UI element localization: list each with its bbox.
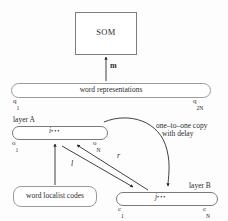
q2n-subscript: 2N	[197, 105, 204, 111]
oN-subscript: N	[97, 147, 101, 153]
word-representations-right-index: q2N	[193, 99, 203, 112]
q1-subscript: 1	[17, 105, 20, 111]
som-label: SOM	[75, 28, 137, 37]
c1-subscript: 1	[121, 213, 124, 219]
c1-symbol: c	[118, 205, 121, 213]
copy-annotation-line-2: with delay	[162, 130, 207, 138]
edge-label-m: m	[110, 62, 117, 70]
word-localist-codes-label: word localist codes	[13, 192, 97, 200]
cN-symbol: c	[203, 205, 206, 213]
layer-a-ellipsis-dots: •••	[51, 128, 60, 134]
layer-b-ellipsis-dots: •••	[157, 194, 166, 200]
layer-b-left-unit-label: c1	[118, 207, 124, 220]
arrow-layerB-to-layerA	[77, 145, 148, 190]
edge-label-r: r	[117, 152, 120, 160]
layer-b-title: layer B	[189, 182, 211, 190]
q2n-symbol: q	[193, 97, 197, 105]
edge-label-l: l	[71, 160, 73, 168]
layer-a-right-unit-label: oN	[93, 141, 101, 154]
layer-a-middle-index: i•••	[49, 127, 60, 135]
one-to-one-copy-annotation: one–to–one copywith delay	[156, 122, 207, 138]
layer-b-right-unit-label: cN	[203, 207, 210, 220]
layer-b-middle-index: j•••	[155, 193, 166, 201]
diagram-canvas: SOM m word representations q1 q2N layer …	[0, 0, 228, 221]
layer-a-title: layer A	[13, 116, 35, 124]
cN-subscript: N	[206, 213, 210, 219]
layer-a-left-unit-label: o1	[12, 141, 18, 154]
q1-symbol: q	[13, 97, 17, 105]
word-representations-label: word representations	[11, 86, 211, 94]
layer-b-box	[116, 192, 218, 206]
word-representations-left-index: q1	[13, 99, 19, 112]
o1-symbol: o	[12, 139, 16, 147]
o1-subscript: 1	[16, 147, 19, 153]
oN-symbol: o	[93, 139, 97, 147]
